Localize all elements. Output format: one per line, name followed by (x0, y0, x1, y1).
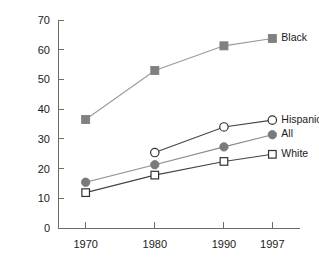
data-point-all (268, 130, 276, 138)
y-tick-label: 0 (44, 222, 50, 234)
x-tick-label: 1997 (260, 238, 284, 250)
data-point-black (268, 34, 276, 42)
x-axis-tick-marks (86, 222, 273, 228)
series-label-hispanic: Hispanic (281, 113, 319, 125)
y-tick-label: 10 (38, 192, 50, 204)
y-tick-label: 30 (38, 133, 50, 145)
y-tick-label: 70 (38, 14, 50, 26)
line-chart: 010203040506070 1970198019901997 BlackHi… (0, 0, 319, 271)
data-point-black (220, 42, 228, 50)
chart-container: 010203040506070 1970198019901997 BlackHi… (0, 0, 319, 271)
series-labels-group: BlackHispanicAllWhite (281, 31, 319, 159)
data-point-hispanic (151, 148, 159, 156)
x-axis-tick-labels: 1970198019901997 (73, 238, 284, 250)
y-axis-tick-marks (58, 20, 64, 228)
series-label-black: Black (281, 31, 307, 43)
data-point-all (220, 143, 228, 151)
y-axis-tick-labels: 010203040506070 (38, 14, 50, 234)
y-tick-label: 50 (38, 73, 50, 85)
data-point-black (82, 116, 90, 124)
data-point-black (151, 67, 159, 75)
series-line-black (86, 38, 273, 119)
data-point-white (151, 171, 159, 179)
y-tick-label: 40 (38, 103, 50, 115)
x-tick-label: 1990 (212, 238, 236, 250)
series-lines-group (86, 38, 273, 192)
data-point-all (151, 161, 159, 169)
y-tick-label: 20 (38, 163, 50, 175)
data-point-white (220, 158, 228, 166)
series-label-white: White (281, 147, 308, 159)
y-tick-label: 60 (38, 44, 50, 56)
series-markers-group (81, 34, 276, 196)
data-point-white (269, 151, 277, 159)
x-tick-label: 1980 (143, 238, 167, 250)
data-point-white (82, 189, 90, 197)
series-line-hispanic (155, 120, 273, 152)
data-point-all (81, 178, 89, 186)
data-point-hispanic (220, 123, 228, 131)
series-label-all: All (281, 127, 293, 139)
x-tick-label: 1970 (73, 238, 97, 250)
series-line-white (86, 154, 273, 192)
data-point-hispanic (268, 116, 276, 124)
